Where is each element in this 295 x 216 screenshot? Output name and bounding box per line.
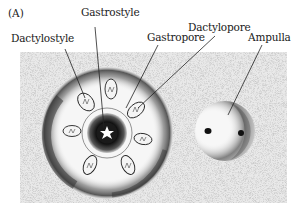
label-ampulla: Ampulla: [248, 31, 291, 43]
ampulla: [195, 101, 255, 161]
label-dactylopore: Dactylopore: [188, 21, 250, 33]
label-dactylostyle: Dactylostyle: [11, 32, 74, 44]
label-gastrostyle: Gastrostyle: [81, 6, 140, 18]
